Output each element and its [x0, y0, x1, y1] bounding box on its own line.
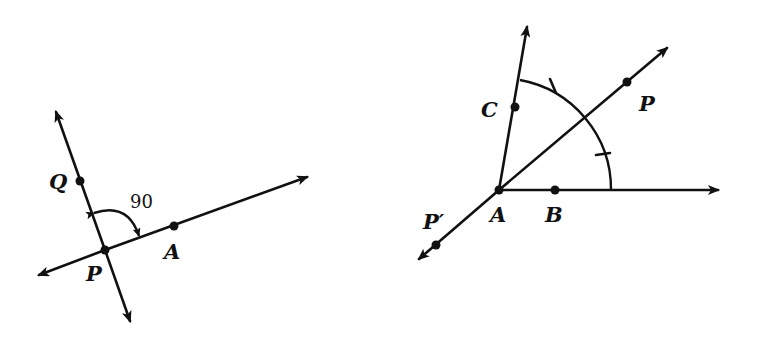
point-p: [101, 246, 110, 255]
line-pq-down: [105, 250, 130, 321]
label-p-prime: P′: [422, 209, 445, 234]
figure-perpendicular: Q P A 90: [39, 112, 307, 321]
point-a-left: [170, 222, 179, 231]
label-q: Q: [49, 169, 67, 194]
point-a-right: [495, 186, 504, 195]
line-pa-right: [105, 177, 307, 250]
point-p-right: [623, 78, 632, 87]
label-c: C: [481, 97, 498, 122]
label-b: B: [544, 202, 563, 227]
figure-angle-bisector: A B C P P′: [419, 27, 718, 259]
point-c: [511, 103, 520, 112]
ray-ap: [499, 48, 667, 190]
label-a-left: A: [162, 239, 180, 264]
geometry-diagram: Q P A 90 A B C P P′: [0, 0, 760, 341]
right-angle-arc: [94, 210, 139, 236]
label-a-right: A: [488, 202, 506, 227]
tick-mark-lower: [596, 153, 610, 155]
label-p: P: [85, 261, 103, 286]
label-p-right: P: [638, 91, 656, 116]
angle-label-90: 90: [130, 191, 153, 212]
point-p-prime: [432, 241, 441, 250]
point-b: [551, 186, 560, 195]
point-q: [76, 177, 85, 186]
